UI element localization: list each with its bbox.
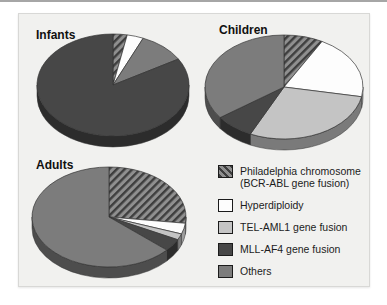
pie-chart-infants bbox=[31, 30, 201, 160]
legend-swatch-mll-af4 bbox=[218, 243, 233, 256]
legend-item-hyperdiploidy: Hyperdiploidy bbox=[218, 199, 368, 212]
legend-label-tel-aml1: TEL-AML1 gene fusion bbox=[240, 221, 347, 233]
top-rule bbox=[0, 0, 387, 2]
legend-item-others: Others bbox=[218, 265, 368, 278]
legend: Philadelphia chromosome (BCR-ABL gene fu… bbox=[218, 165, 368, 278]
legend-swatch-philadelphia bbox=[218, 165, 233, 178]
pie-chart-children bbox=[201, 28, 376, 163]
legend-label-others: Others bbox=[240, 265, 272, 277]
legend-label-philadelphia: Philadelphia chromosome (BCR-ABL gene fu… bbox=[240, 165, 361, 190]
legend-swatch-others bbox=[218, 265, 233, 278]
legend-label-mll-af4: MLL-AF4 gene fusion bbox=[240, 243, 340, 255]
legend-item-tel-aml1: TEL-AML1 gene fusion bbox=[218, 221, 368, 234]
legend-item-mll-af4: MLL-AF4 gene fusion bbox=[218, 243, 368, 256]
legend-label-hyperdiploidy: Hyperdiploidy bbox=[240, 199, 304, 211]
figure-panel: Infants Children Adults Philadelphia chr… bbox=[18, 13, 370, 287]
figure-page: Infants Children Adults Philadelphia chr… bbox=[0, 0, 387, 305]
legend-swatch-tel-aml1 bbox=[218, 221, 233, 234]
legend-item-philadelphia: Philadelphia chromosome (BCR-ABL gene fu… bbox=[218, 165, 368, 190]
legend-swatch-hyperdiploidy bbox=[218, 199, 233, 212]
pie-chart-adults bbox=[29, 162, 199, 288]
